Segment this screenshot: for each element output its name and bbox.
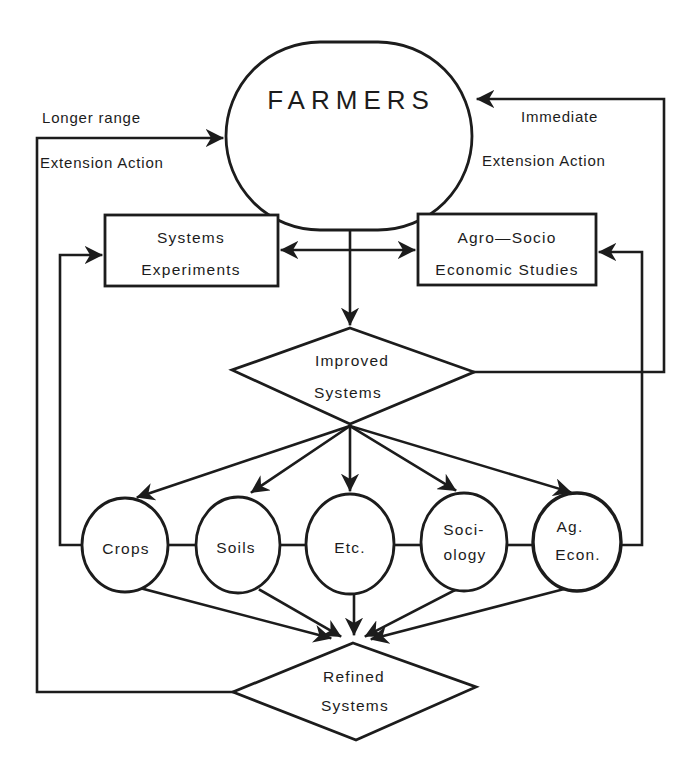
ag-econ-circle — [533, 493, 621, 591]
refined-systems-line2: Systems — [321, 697, 389, 714]
improved-to-crops-arrow — [138, 426, 350, 497]
systems-experiments-line1: Systems — [157, 229, 225, 246]
soils-label: Soils — [216, 539, 256, 556]
systems-experiments-line2: Experiments — [141, 261, 240, 278]
etc-label: Etc. — [334, 539, 366, 556]
ag-econ-label-line1: Ag. — [557, 518, 584, 535]
immediate-label: Immediate — [521, 108, 598, 125]
improved-systems-diamond — [232, 328, 474, 424]
improved-to-ageconomics-arrow — [350, 426, 570, 492]
sociology-label-line2: ology — [443, 546, 486, 563]
agro-socio-line2: Economic Studies — [435, 261, 578, 278]
agro-socio-line1: Agro—Socio — [457, 229, 556, 246]
longer-range-extension-label: Extension Action — [40, 154, 164, 171]
sociology-label-line1: Soci- — [443, 521, 484, 538]
sociology-circle — [421, 493, 507, 591]
improved-to-sociology-arrow — [350, 426, 455, 490]
farming-systems-flow-diagram: FARMERS Longer range Extension Action Im… — [0, 0, 692, 765]
immediate-extension-label: Extension Action — [482, 152, 606, 169]
refined-systems-diamond — [233, 643, 476, 740]
refined-systems-line1: Refined — [323, 668, 385, 685]
longer-range-label: Longer range — [42, 109, 141, 126]
farmers-node — [226, 42, 472, 230]
improved-systems-line2: Systems — [314, 384, 382, 401]
improved-to-soils-arrow — [252, 426, 350, 492]
disciplines-to-experiments-line — [60, 255, 101, 545]
improved-systems-line1: Improved — [315, 352, 389, 369]
ageconomics-to-refined-arrow — [372, 588, 568, 639]
disciplines-to-studies-line — [600, 252, 642, 545]
farmers-label: FARMERS — [267, 85, 435, 115]
crops-label: Crops — [102, 540, 149, 557]
ag-econ-label-line2: Econ. — [555, 546, 601, 563]
